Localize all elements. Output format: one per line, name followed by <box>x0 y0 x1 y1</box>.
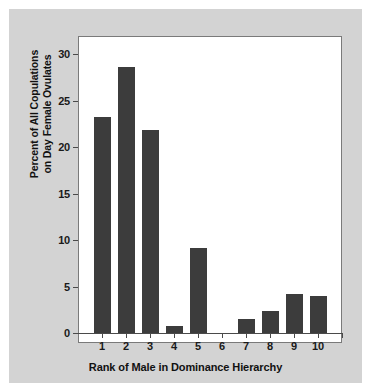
y-axis-title-line-2: on Day Female Ovulates <box>41 34 54 194</box>
x-tick-label: 3 <box>147 340 153 352</box>
y-tick-mark <box>73 54 78 55</box>
y-tick-label: 5 <box>64 281 70 293</box>
y-tick-mark <box>73 240 78 241</box>
bar-rank-9 <box>286 294 303 333</box>
y-tick-mark <box>73 194 78 195</box>
figure-panel: Percent of All Copulations on Day Female… <box>9 9 362 383</box>
x-tick-label: 4 <box>171 340 177 352</box>
x-axis-title: Rank of Male in Dominance Hierarchy <box>9 361 362 373</box>
x-tick-label: 6 <box>219 340 225 352</box>
x-tick-label: 5 <box>195 340 201 352</box>
y-tick-label: 20 <box>58 141 70 153</box>
y-tick-label: 30 <box>58 48 70 60</box>
bar-rank-2 <box>118 67 135 333</box>
x-tick-label: 7 <box>243 340 249 352</box>
bar-rank-1 <box>94 117 111 333</box>
bar-rank-8 <box>262 311 279 333</box>
bar-rank-7 <box>238 319 255 333</box>
bar-rank-5 <box>190 248 207 333</box>
x-axis-line <box>78 333 342 334</box>
y-axis-title: Percent of All Copulations on Day Female… <box>28 34 54 194</box>
x-tick-label: 10 <box>312 340 324 352</box>
y-axis-title-line-1: Percent of All Copulations <box>28 34 41 194</box>
y-tick-label: 25 <box>58 95 70 107</box>
y-tick-label: 0 <box>64 327 70 339</box>
bar-rank-4 <box>166 326 183 333</box>
y-tick-mark <box>73 101 78 102</box>
x-tick-label: 8 <box>267 340 273 352</box>
x-tick-label: 9 <box>291 340 297 352</box>
x-tick-label: 2 <box>123 340 129 352</box>
y-tick-label: 10 <box>58 234 70 246</box>
y-tick-mark <box>73 147 78 148</box>
figure-page: Percent of All Copulations on Day Female… <box>0 0 371 392</box>
bar-rank-3 <box>142 130 159 333</box>
y-tick-label: 15 <box>58 188 70 200</box>
y-tick-mark <box>73 287 78 288</box>
x-tick-label: 1 <box>99 340 105 352</box>
x-tick-mark-end <box>342 333 343 338</box>
bar-rank-10 <box>310 296 327 333</box>
bar-chart: Percent of All Copulations on Day Female… <box>9 9 362 383</box>
